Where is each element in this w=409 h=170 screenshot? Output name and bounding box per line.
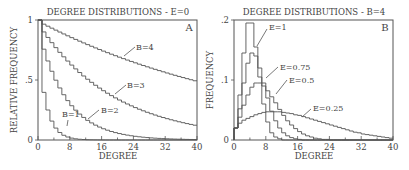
panel-b-ylabel: FREQUENCY bbox=[205, 50, 215, 109]
y-tick-label: .2 bbox=[221, 15, 229, 25]
leader-line bbox=[276, 80, 287, 94]
curve-E=0.75 bbox=[234, 53, 393, 140]
panel-a-ylabel: RELATIVE FREQUENCY bbox=[9, 26, 19, 133]
curve-label: B=2 bbox=[101, 106, 119, 115]
y-tick-label: .5 bbox=[25, 75, 33, 85]
panel-b-xlabel: DEGREE bbox=[295, 151, 334, 161]
x-tick-label: 16 bbox=[292, 142, 303, 152]
curve-B=2 bbox=[38, 20, 197, 140]
panel-a-title: DEGREE DISTRIBUTIONS - E=0 bbox=[47, 7, 189, 17]
curve-label: E=1 bbox=[269, 23, 287, 32]
panel-a-curve-labels: B=1B=2B=3B=4 bbox=[62, 43, 154, 126]
x-tick-label: 40 bbox=[388, 142, 399, 152]
panel-b-letter: B bbox=[381, 22, 388, 33]
degree-distribution-figure: DEGREE DISTRIBUTIONS - E=0 A RELATIVE FR… bbox=[0, 0, 409, 170]
curve-label: B=3 bbox=[127, 81, 145, 90]
x-tick-label: 16 bbox=[96, 142, 107, 152]
x-tick-label: 24 bbox=[324, 142, 335, 152]
leader-line bbox=[257, 29, 267, 46]
x-tick-label: 0 bbox=[231, 142, 236, 152]
x-tick-label: 24 bbox=[128, 142, 139, 152]
leader-line bbox=[115, 85, 126, 94]
leader-line bbox=[124, 47, 135, 56]
curve-label: E=0.5 bbox=[289, 76, 314, 85]
x-tick-label: 32 bbox=[356, 142, 367, 152]
leader-line bbox=[88, 110, 99, 119]
panel-a: DEGREE DISTRIBUTIONS - E=0 A RELATIVE FR… bbox=[9, 7, 202, 161]
curve-E=0.25 bbox=[234, 112, 393, 140]
x-tick-label: 32 bbox=[160, 142, 171, 152]
panel-b-y-ticks: 0.1.2 bbox=[221, 15, 234, 145]
leader-line bbox=[266, 67, 278, 78]
panel-a-letter: A bbox=[184, 22, 193, 33]
y-tick-label: 1 bbox=[28, 15, 33, 25]
curve-B=1 bbox=[38, 20, 197, 140]
panel-a-y-ticks: 0.51 bbox=[25, 15, 38, 145]
curve-label: E=0.25 bbox=[313, 104, 343, 113]
y-tick-label: 0 bbox=[224, 135, 229, 145]
panel-a-x-ticks: 0816243240 bbox=[35, 136, 202, 152]
x-tick-label: 0 bbox=[35, 142, 40, 152]
x-tick-label: 40 bbox=[192, 142, 203, 152]
y-tick-label: 0 bbox=[28, 135, 33, 145]
y-tick-label: .1 bbox=[221, 75, 229, 85]
leader-line bbox=[67, 120, 68, 126]
panel-a-xlabel: DEGREE bbox=[99, 151, 138, 161]
panel-b-title: DEGREE DISTRIBUTIONS - B=4 bbox=[243, 7, 385, 17]
x-tick-label: 8 bbox=[263, 142, 268, 152]
panel-a-frame bbox=[38, 20, 197, 140]
curve-label: B=1 bbox=[62, 110, 80, 119]
curve-label: B=4 bbox=[136, 43, 154, 52]
panel-a-curves bbox=[38, 20, 197, 140]
x-tick-label: 8 bbox=[67, 142, 72, 152]
panel-b: DEGREE DISTRIBUTIONS - B=4 B FREQUENCY D… bbox=[205, 7, 398, 161]
curve-label: E=0.75 bbox=[280, 63, 310, 72]
leader-line bbox=[302, 109, 311, 117]
curve-B=4 bbox=[38, 20, 197, 81]
